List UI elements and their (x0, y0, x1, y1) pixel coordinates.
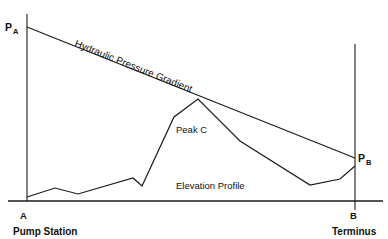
pressure-a-label: P (5, 21, 12, 33)
pump-station-caption: Pump Station (13, 226, 77, 237)
peak-c-annotation: Peak C (176, 124, 207, 135)
node-a-label: A (20, 210, 27, 221)
pressure-a-subscript: A (13, 27, 19, 36)
node-b-label: B (350, 210, 357, 221)
pressure-b-label: P (358, 152, 365, 164)
pressure-b-subscript: B (366, 158, 372, 167)
terminus-caption: Terminus (332, 226, 377, 237)
elevation-profile-annotation: Elevation Profile (176, 180, 245, 191)
diagram-canvas: P A P B Hydraulic Pressure Gradient Peak… (0, 0, 388, 239)
gradient-annotation: Hydraulic Pressure Gradient (73, 38, 194, 95)
hydraulic-gradient-figure: P A P B Hydraulic Pressure Gradient Peak… (0, 0, 388, 239)
